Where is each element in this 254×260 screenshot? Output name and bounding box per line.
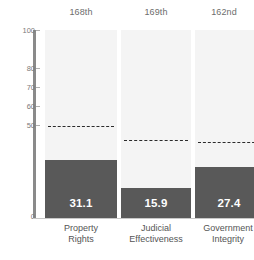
y-tick-mark-100	[36, 30, 40, 31]
y-tick-mark-60	[36, 106, 40, 107]
y-tick-label-100: 100	[9, 27, 35, 35]
plot-area: 100 80 70 60 50 0 31.1 15.9 27.4	[0, 0, 254, 260]
category-label-government-integrity: Government Integrity	[194, 223, 254, 245]
bar-property-rights[interactable]: 31.1	[45, 160, 117, 218]
average-line-property-rights	[48, 126, 114, 127]
rule-of-law-bar-chart: 168th 169th 162nd 100 80 70 60 50 0 31.1…	[0, 0, 254, 260]
average-line-government-integrity	[198, 142, 254, 143]
x-axis-baseline	[33, 218, 254, 219]
y-tick-label-60: 60	[9, 103, 35, 111]
bar-government-integrity[interactable]: 27.4	[195, 167, 254, 218]
y-tick-label-70: 70	[9, 84, 35, 92]
y-tick-label-80: 80	[9, 65, 35, 73]
bar-value-judicial-effectiveness: 15.9	[121, 197, 191, 209]
y-tick-mark-70	[36, 87, 40, 88]
y-tick-mark-80	[36, 68, 40, 69]
bar-value-government-integrity: 27.4	[195, 197, 254, 209]
y-tick-mark-50	[36, 125, 40, 126]
bar-judicial-effectiveness[interactable]: 15.9	[121, 188, 191, 218]
y-tick-label-50: 50	[9, 122, 35, 130]
average-line-judicial-effectiveness	[124, 140, 188, 141]
y-tick-label-0: 0	[9, 213, 35, 221]
category-label-property-rights: Property Rights	[45, 223, 117, 245]
category-label-judicial-effectiveness: Judicial Effectiveness	[118, 223, 194, 245]
bar-value-property-rights: 31.1	[45, 197, 117, 209]
